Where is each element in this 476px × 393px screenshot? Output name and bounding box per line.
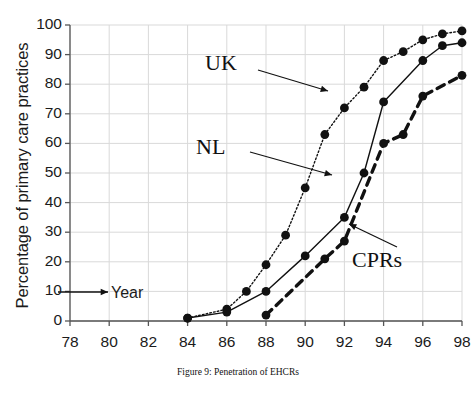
data-point xyxy=(281,231,290,240)
y-tick-label: 30 xyxy=(6,222,62,240)
annotation-arrow-uk xyxy=(258,70,328,92)
figure-caption: Figure 9: Penetration of EHCRs xyxy=(0,367,476,377)
data-point xyxy=(320,254,329,263)
data-point xyxy=(340,213,349,222)
x-tick-label: 98 xyxy=(437,333,476,351)
data-point xyxy=(379,56,388,65)
y-tick-label: 10 xyxy=(6,281,62,299)
data-point xyxy=(399,47,408,56)
year-annotation-label: Year xyxy=(111,284,143,302)
data-point xyxy=(301,251,310,260)
annotation-arrow-cprs xyxy=(349,224,397,247)
figure-penetration-of-ehcrs: Percentage of primary care practices 010… xyxy=(0,0,476,393)
data-point xyxy=(438,29,447,38)
y-tick-label: 50 xyxy=(6,163,62,181)
series-line-cprs xyxy=(266,75,462,315)
data-point xyxy=(458,27,467,36)
data-point xyxy=(379,139,388,148)
series-label-nl: NL xyxy=(196,134,225,160)
data-point xyxy=(262,260,271,269)
data-point xyxy=(340,103,349,112)
data-point xyxy=(262,287,271,296)
y-tick-label: 40 xyxy=(6,193,62,211)
data-point xyxy=(360,83,369,92)
data-point xyxy=(418,35,427,44)
data-point xyxy=(458,38,467,47)
data-point xyxy=(458,71,467,80)
data-point xyxy=(262,311,271,320)
y-tick-label: 100 xyxy=(6,15,62,33)
data-point xyxy=(320,130,329,139)
data-point xyxy=(340,237,349,246)
y-tick-label: 20 xyxy=(6,252,62,270)
gridlines xyxy=(70,25,462,321)
tick-marks xyxy=(65,25,462,326)
y-tick-label: 70 xyxy=(6,104,62,122)
data-point xyxy=(379,98,388,107)
data-point xyxy=(418,56,427,65)
y-tick-label: 90 xyxy=(6,45,62,63)
y-tick-label: 60 xyxy=(6,133,62,151)
data-point xyxy=(301,183,310,192)
data-point xyxy=(222,308,231,317)
series-label-cprs: CPRs xyxy=(352,247,402,273)
data-point xyxy=(399,130,408,139)
annotation-arrow-year xyxy=(58,289,108,296)
data-point xyxy=(360,169,369,178)
data-point xyxy=(438,41,447,50)
series-label-uk: UK xyxy=(205,50,237,76)
data-point xyxy=(418,92,427,101)
y-tick-label: 0 xyxy=(6,311,62,329)
y-tick-label: 80 xyxy=(6,74,62,92)
data-point xyxy=(183,314,192,323)
data-point xyxy=(242,287,251,296)
